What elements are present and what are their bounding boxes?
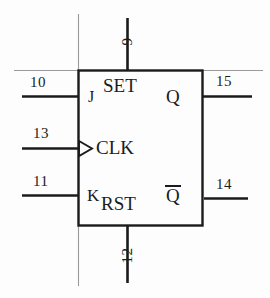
port-label-k: K <box>87 187 99 204</box>
port-label-j: J <box>88 89 94 105</box>
port-label-q: Q <box>166 87 180 106</box>
jk-flip-flop-diagram: 9 10 13 11 12 15 14 J SET CLK K RST Q Q <box>0 0 270 298</box>
port-label-clk: CLK <box>96 138 134 157</box>
pin-label-clk-left: 13 <box>33 126 49 141</box>
qbar-overline-text: Q <box>166 185 180 205</box>
port-label-rst: RST <box>101 194 136 213</box>
pin-label-qbar-right: 14 <box>216 177 232 192</box>
port-label-set: SET <box>103 76 137 95</box>
pin-label-k-left: 11 <box>33 174 48 189</box>
schematic-lines <box>0 0 270 298</box>
pin-label-set-top: 9 <box>120 31 135 53</box>
pin-label-q-right: 15 <box>216 74 232 89</box>
port-label-qbar: Q <box>166 185 180 205</box>
clock-edge-triangle <box>79 141 92 156</box>
pin-label-j-left: 10 <box>30 75 46 90</box>
pin-label-rst-bottom: 12 <box>120 245 135 267</box>
